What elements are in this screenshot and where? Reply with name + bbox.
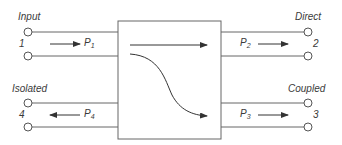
terminal-circle xyxy=(24,28,32,36)
terminal-circle xyxy=(304,28,312,36)
port-2-name: Direct xyxy=(295,12,321,22)
p2-label: P2 xyxy=(240,38,251,49)
terminal-circle xyxy=(24,123,32,131)
p3-label: P3 xyxy=(240,109,251,120)
terminal-circle xyxy=(24,52,32,60)
port-1-name: Input xyxy=(18,12,40,22)
terminal-circle xyxy=(304,99,312,107)
port-3-number: 3 xyxy=(313,110,319,120)
port-3-name: Coupled xyxy=(288,84,325,94)
terminal-circle xyxy=(24,99,32,107)
coupler-box xyxy=(118,21,221,139)
port-2-number: 2 xyxy=(313,39,319,49)
terminal-circle xyxy=(304,52,312,60)
p4-label: P4 xyxy=(84,109,95,120)
coupled-path-arrow xyxy=(130,54,207,116)
terminal-circle xyxy=(304,123,312,131)
coupler-diagram xyxy=(0,0,342,145)
port-4-name: Isolated xyxy=(12,84,47,94)
port-4-number: 4 xyxy=(19,110,25,120)
p1-label: P1 xyxy=(84,38,95,49)
port-1-number: 1 xyxy=(19,39,25,49)
